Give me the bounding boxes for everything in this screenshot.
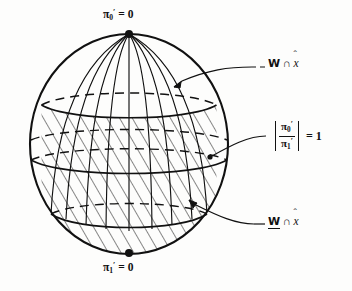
pole-top-prime: ′ — [113, 8, 115, 17]
label-upper-set: W∩ˆx — [268, 58, 299, 70]
pole-top-equals: = 0 — [118, 8, 133, 20]
ratio-equals: = 1 — [306, 130, 322, 142]
ratio-numerator: π0′ — [279, 121, 295, 134]
upper-set-hat-icon: ˆ — [294, 50, 297, 60]
pole-dot-top — [125, 30, 133, 38]
lower-set-hat-icon: ˆ — [294, 208, 297, 218]
abs-bar-left — [275, 121, 276, 151]
pole-dot-bottom — [125, 249, 133, 257]
label-ratio: π0′ π1′ = 1 — [272, 121, 322, 151]
lower-set-intersect-symbol: ∩ — [283, 215, 291, 227]
figure-root: π0′ = 0 π1′ = 0 W∩ˆx W∩ˆx π0′ π1′ = 1 — [0, 0, 352, 291]
ratio-fraction: π0′ π1′ — [279, 121, 295, 151]
leader-upper-set — [174, 67, 265, 88]
abs-bar-right — [298, 121, 299, 151]
upper-set-w-symbol: W — [268, 57, 280, 70]
pole-bottom-equals: = 0 — [118, 261, 133, 273]
lower-set-x-symbol: ˆx — [294, 215, 299, 227]
label-pole-top: π0′ = 0 — [103, 9, 134, 22]
upper-set-x-symbol: ˆx — [294, 57, 299, 69]
upper-set-intersect-symbol: ∩ — [283, 57, 291, 69]
pole-bottom-prime: ′ — [113, 261, 115, 270]
label-pole-bottom: π1′ = 0 — [103, 262, 134, 275]
ratio-denominator: π1′ — [279, 138, 295, 151]
lower-set-w-symbol: W — [268, 215, 280, 229]
label-lower-set: W∩ˆx — [268, 216, 299, 228]
